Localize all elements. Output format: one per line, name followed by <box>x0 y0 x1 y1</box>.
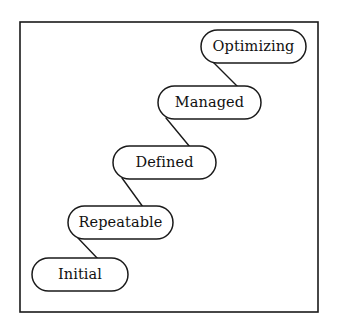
maturity-model-diagram: Initial Repeatable Defined Managed Optim… <box>0 0 340 331</box>
connector-managed-to-optimizing <box>213 62 238 87</box>
stage-label-managed: Managed <box>175 94 244 110</box>
stage-node-initial[interactable]: Initial <box>32 258 128 291</box>
stage-label-repeatable: Repeatable <box>79 214 163 230</box>
stage-label-optimizing: Optimizing <box>213 38 295 54</box>
stage-node-optimizing[interactable]: Optimizing <box>201 30 306 63</box>
connector-repeatable-to-defined <box>122 178 143 207</box>
stage-label-initial: Initial <box>58 266 102 282</box>
stage-node-defined[interactable]: Defined <box>113 146 216 179</box>
diagram-canvas: Initial Repeatable Defined Managed Optim… <box>0 0 340 331</box>
stage-node-repeatable[interactable]: Repeatable <box>68 206 173 239</box>
connector-initial-to-repeatable <box>78 238 98 259</box>
stage-node-managed[interactable]: Managed <box>158 86 261 119</box>
stage-label-defined: Defined <box>135 154 193 170</box>
connector-defined-to-managed <box>166 118 190 147</box>
